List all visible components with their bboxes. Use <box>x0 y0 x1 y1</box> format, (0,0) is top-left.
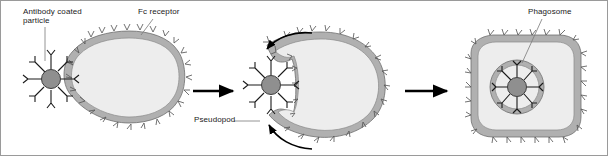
label-phagosome: Phagosome <box>528 7 572 16</box>
phagocytosis-diagram: Antibody coated particle Fc receptor Pse… <box>0 0 608 156</box>
panel-2-cell <box>263 25 390 143</box>
panel-1-cell <box>64 24 192 130</box>
label-fc-receptor: Fc receptor <box>138 7 180 16</box>
diagram-canvas <box>1 1 608 156</box>
particle-core-3 <box>508 78 527 97</box>
particle-core-1 <box>42 70 61 89</box>
antibody-coated-particle-2 <box>243 56 299 114</box>
particle-core-2 <box>262 76 281 95</box>
label-pseudopod: Pseudopod <box>194 115 235 124</box>
label-antibody-coated-particle: Antibody coated particle <box>23 7 82 25</box>
phagosome <box>490 60 544 114</box>
